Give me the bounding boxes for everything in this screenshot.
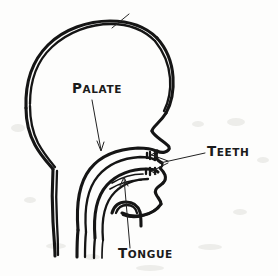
label-palate: PALATE [72,80,122,96]
label-palate-initial: P [72,80,83,96]
label-tongue-rest: ONGUE [128,248,173,260]
label-tongue: TONGUE [118,245,173,261]
label-tongue-initial: T [118,245,128,261]
diagram-canvas: PALATE TEETH TONGUE [0,0,278,276]
pharynx-contour [77,230,103,258]
neck-outline [52,169,58,256]
label-teeth-initial: T [207,143,217,159]
palate-leader [92,100,104,151]
vocal-tract-diagram: PALATE TEETH TONGUE [0,0,278,276]
label-teeth: TEETH [207,143,250,159]
label-palate-rest: ALATE [83,83,122,95]
label-teeth-rest: EETH [217,146,250,158]
